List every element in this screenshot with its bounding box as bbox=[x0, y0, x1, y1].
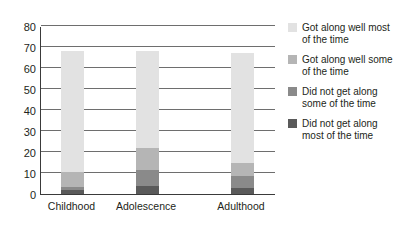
legend-swatch-icon bbox=[288, 55, 297, 64]
y-axis-tick-label: 20 bbox=[4, 148, 36, 159]
bar-segment bbox=[136, 51, 159, 148]
y-axis-tick-label: 10 bbox=[4, 169, 36, 180]
bar-segment bbox=[61, 190, 84, 194]
x-axis-tick-label: Adulthood bbox=[191, 200, 291, 212]
gridline bbox=[41, 25, 275, 26]
bar-adulthood bbox=[231, 53, 254, 194]
legend-label: Got along well some of the time bbox=[302, 54, 400, 77]
y-axis-tick-label: 30 bbox=[4, 127, 36, 138]
legend-swatch-icon bbox=[288, 119, 297, 128]
bar-segment bbox=[61, 51, 84, 172]
legend-swatch-icon bbox=[288, 23, 297, 32]
y-axis-tick-label: 40 bbox=[4, 106, 36, 117]
gridline bbox=[41, 46, 275, 47]
bar-segment bbox=[136, 148, 159, 170]
y-axis-tick-label: 80 bbox=[4, 22, 36, 33]
x-axis-tick-label: Adolescence bbox=[96, 200, 196, 212]
legend-label: Did not get along most of the time bbox=[302, 118, 400, 141]
legend-label: Got along well most of the time bbox=[302, 22, 400, 45]
y-axis-tick-label: 70 bbox=[4, 43, 36, 54]
bar-segment bbox=[231, 53, 254, 162]
y-axis-tick-label: 50 bbox=[4, 85, 36, 96]
bar-childhood bbox=[61, 51, 84, 194]
bar-segment bbox=[231, 163, 254, 177]
legend-item: Got along well most of the time bbox=[288, 22, 400, 45]
legend-item: Did not get along most of the time bbox=[288, 118, 400, 141]
legend-item: Got along well some of the time bbox=[288, 54, 400, 77]
bar-adolescence bbox=[136, 51, 159, 194]
legend-item: Did not get along some of the time bbox=[288, 86, 400, 109]
bar-segment bbox=[231, 188, 254, 194]
legend-label: Did not get along some of the time bbox=[302, 86, 400, 109]
y-axis-tick-label: 0 bbox=[4, 190, 36, 201]
plot-area bbox=[40, 27, 275, 195]
bar-segment bbox=[231, 176, 254, 188]
legend-swatch-icon bbox=[288, 87, 297, 96]
stacked-bar-chart: 01020304050607080 ChildhoodAdolescenceAd… bbox=[0, 0, 401, 237]
chart-legend: Got along well most of the timeGot along… bbox=[288, 22, 400, 150]
bar-segment bbox=[61, 172, 84, 187]
bar-segment bbox=[136, 186, 159, 194]
y-axis-tick-label: 60 bbox=[4, 64, 36, 75]
bar-segment bbox=[136, 170, 159, 186]
